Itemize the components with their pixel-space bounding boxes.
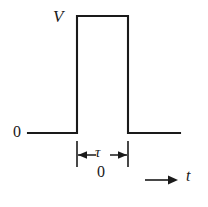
amplitude-label: V [53, 8, 63, 25]
pulse-width-label: τ [95, 145, 100, 160]
baseline-zero-label: 0 [13, 124, 21, 140]
pulse-figure: V 0 τ 0 t [0, 0, 208, 207]
time-axis-label: t [186, 168, 190, 184]
time-origin-label: 0 [97, 164, 105, 180]
